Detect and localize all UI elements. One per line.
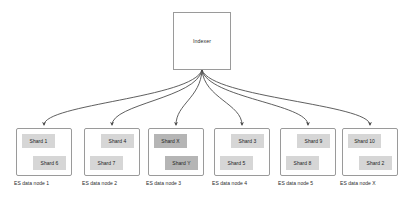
- es-data-node[interactable]: Shard 4Shard 7: [84, 128, 140, 176]
- shard-box[interactable]: Shard 7: [90, 156, 123, 170]
- shard-box[interactable]: Shard 8: [286, 156, 319, 170]
- shard-box[interactable]: Shard 5: [220, 156, 253, 170]
- shard-label: Shard 1: [30, 138, 48, 144]
- shard-label: Shard 3: [239, 138, 257, 144]
- indexer-node[interactable]: Indexer: [173, 12, 231, 70]
- shard-label: Shard 9: [305, 138, 323, 144]
- shard-label: Shard 10: [354, 138, 375, 144]
- shard-box[interactable]: Shard 9: [297, 134, 330, 148]
- shard-label: Shard Y: [172, 160, 190, 166]
- es-data-node[interactable]: Shard 3Shard 5: [214, 128, 270, 176]
- es-data-node-caption: ES data node 3: [146, 180, 218, 186]
- shard-box[interactable]: Shard X: [154, 134, 187, 148]
- es-data-node-caption: ES data node 4: [212, 180, 284, 186]
- shard-label: Shard 6: [41, 160, 59, 166]
- edge-indexer-to-node: [202, 70, 242, 125]
- edges-group: [44, 70, 370, 125]
- es-data-node[interactable]: Shard XShard Y: [148, 128, 204, 176]
- shard-distribution-diagram: Indexer Shard 1Shard 6ES data node 1Shar…: [0, 0, 403, 209]
- shard-box[interactable]: Shard 2: [359, 156, 392, 170]
- shard-box[interactable]: Shard 6: [33, 156, 66, 170]
- shard-box[interactable]: Shard 10: [348, 134, 381, 148]
- es-data-node[interactable]: Shard 9Shard 8: [280, 128, 336, 176]
- edge-indexer-to-node: [176, 70, 202, 125]
- shard-label: Shard 5: [228, 160, 246, 166]
- shard-box[interactable]: Shard 1: [22, 134, 55, 148]
- shard-label: Shard 2: [367, 160, 385, 166]
- edge-indexer-to-node: [44, 70, 202, 125]
- es-data-node-caption: ES data node X: [340, 180, 403, 186]
- indexer-label: Indexer: [193, 38, 211, 44]
- edge-indexer-to-node: [202, 70, 370, 125]
- es-data-node-caption: ES data node 2: [82, 180, 154, 186]
- es-data-node[interactable]: Shard 1Shard 6: [16, 128, 72, 176]
- shard-label: Shard 8: [294, 160, 312, 166]
- shard-box[interactable]: Shard 3: [231, 134, 264, 148]
- shard-label: Shard X: [161, 138, 179, 144]
- shard-label: Shard 7: [98, 160, 116, 166]
- shard-box[interactable]: Shard Y: [165, 156, 198, 170]
- es-data-node[interactable]: Shard 10Shard 2: [342, 128, 398, 176]
- edge-indexer-to-node: [112, 70, 202, 125]
- es-data-node-caption: ES data node 1: [14, 180, 86, 186]
- edge-indexer-to-node: [202, 70, 308, 125]
- shard-box[interactable]: Shard 4: [101, 134, 134, 148]
- shard-label: Shard 4: [109, 138, 127, 144]
